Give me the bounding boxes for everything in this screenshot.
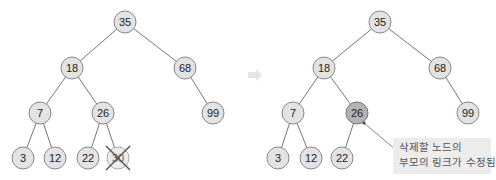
svg-text:22: 22 bbox=[336, 152, 348, 164]
tree-node-18: 18 bbox=[61, 57, 83, 79]
tree-node-22: 22 bbox=[331, 147, 353, 169]
tree-node-35: 35 bbox=[114, 11, 136, 33]
tree-node-26: 26 bbox=[346, 102, 368, 124]
tree-node-3: 3 bbox=[12, 147, 34, 169]
svg-text:22: 22 bbox=[82, 152, 94, 164]
svg-text:26: 26 bbox=[97, 107, 109, 119]
tree-node-68: 68 bbox=[429, 57, 451, 79]
tree-node-7: 7 bbox=[29, 102, 51, 124]
callout-note: 삭제할 노드의 부모의 링크가 수정됨 bbox=[393, 138, 491, 174]
svg-text:12: 12 bbox=[49, 152, 61, 164]
svg-text:3: 3 bbox=[275, 152, 281, 164]
transition-arrow bbox=[248, 69, 262, 81]
svg-text:12: 12 bbox=[305, 152, 317, 164]
svg-text:99: 99 bbox=[207, 107, 219, 119]
callout-line-1: 삭제할 노드의 bbox=[399, 140, 491, 155]
tree-node-35: 35 bbox=[369, 11, 391, 33]
tree-node-12: 12 bbox=[300, 147, 322, 169]
tree-node-12: 12 bbox=[44, 147, 66, 169]
svg-text:99: 99 bbox=[462, 107, 474, 119]
tree-node-3: 3 bbox=[267, 147, 289, 169]
svg-text:7: 7 bbox=[37, 107, 43, 119]
tree-node-26: 26 bbox=[92, 102, 114, 124]
tree-node-99: 99 bbox=[202, 102, 224, 124]
tree-node-68: 68 bbox=[174, 57, 196, 79]
svg-text:3: 3 bbox=[20, 152, 26, 164]
svg-text:68: 68 bbox=[434, 62, 446, 74]
svg-text:18: 18 bbox=[66, 62, 78, 74]
svg-text:18: 18 bbox=[318, 62, 330, 74]
tree-node-18: 18 bbox=[313, 57, 335, 79]
tree-node-30: 30 bbox=[106, 146, 130, 170]
svg-text:7: 7 bbox=[290, 107, 296, 119]
svg-text:68: 68 bbox=[179, 62, 191, 74]
tree-node-7: 7 bbox=[282, 102, 304, 124]
callout-line-2: 부모의 링크가 수정됨 bbox=[399, 155, 491, 170]
tree-node-99: 99 bbox=[457, 102, 479, 124]
svg-text:35: 35 bbox=[374, 16, 386, 28]
tree-node-22: 22 bbox=[77, 147, 99, 169]
svg-text:35: 35 bbox=[119, 16, 131, 28]
callout-pointer bbox=[362, 121, 396, 150]
svg-text:26: 26 bbox=[351, 107, 363, 119]
